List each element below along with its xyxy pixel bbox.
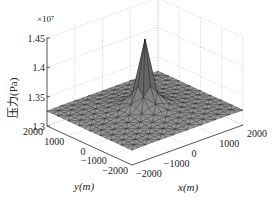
x-axis-label: x(m) (177, 181, 198, 194)
surface-plot: 1.31.351.41.45−2000−1000010002000−2000−1… (0, 0, 275, 202)
z-tick-label: 1.35 (28, 92, 46, 103)
z-tick-label: 1.45 (28, 33, 46, 44)
z-axis-label: 压力(Pa) (7, 77, 20, 118)
y-axis-label: y(m) (73, 180, 94, 193)
y-tick-label: 1000 (44, 136, 64, 147)
surface-plot-svg: 1.31.351.41.45−2000−1000010002000−2000−1… (0, 0, 275, 202)
z-multiplier-label: ×10⁷ (37, 14, 54, 24)
pressure-surface (47, 39, 243, 150)
y-tick-label: 0 (81, 146, 86, 157)
z-tick-label: 1.4 (33, 62, 46, 73)
y-tick-label: −2000 (102, 165, 128, 176)
x-tick-label: −2000 (136, 168, 162, 179)
x-tick-label: 2000 (247, 128, 267, 139)
y-tick-label: 2000 (23, 126, 43, 137)
y-tick-label: −1000 (81, 155, 107, 166)
x-tick-label: 1000 (219, 138, 239, 149)
x-tick-label: −1000 (164, 158, 190, 169)
x-tick-label: 0 (192, 148, 197, 159)
